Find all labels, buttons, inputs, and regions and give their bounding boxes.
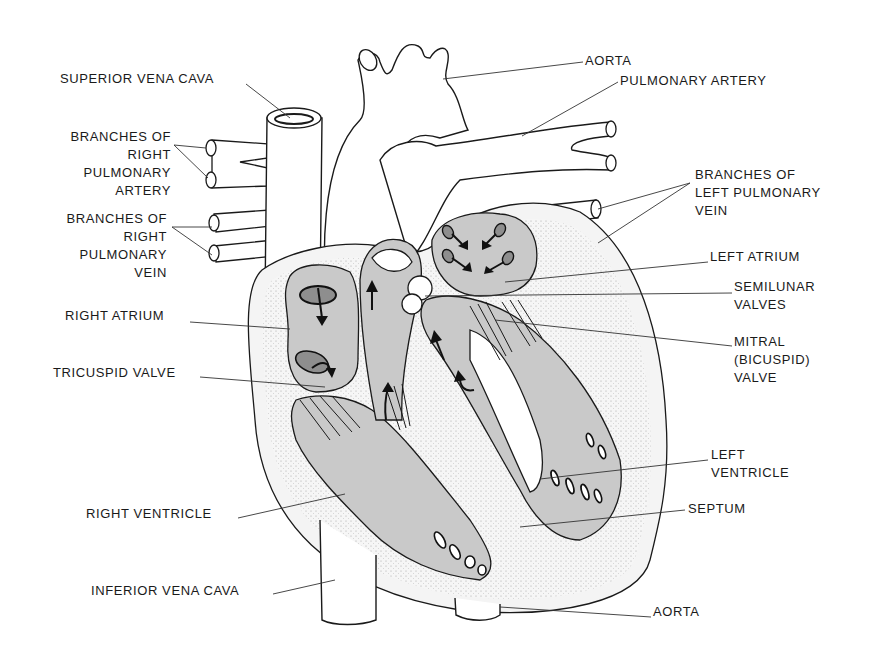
label-superior-vena-cava: SUPERIOR VENA CAVA (60, 70, 214, 88)
right-atrium-chamber (285, 265, 358, 392)
heart-diagram: SUPERIOR VENA CAVA BRANCHES OF RIGHT PUL… (0, 0, 871, 661)
label-right-ventricle: RIGHT VENTRICLE (86, 505, 212, 523)
label-left-atrium: LEFT ATRIUM (710, 248, 800, 266)
label-left-ventricle: LEFT VENTRICLE (711, 446, 789, 482)
leader-line-branches-right-pulmonary-artery (174, 145, 208, 178)
leader-line-aorta-top (443, 62, 583, 79)
leader-line-branches-right-pulmonary-artery (174, 145, 206, 148)
label-pulmonary-artery: PULMONARY ARTERY (620, 72, 767, 90)
label-inferior-vena-cava: INFERIOR VENA CAVA (91, 582, 239, 600)
right-pulmonary-artery-branches (206, 140, 270, 188)
label-septum: SEPTUM (688, 500, 746, 518)
label-right-atrium: RIGHT ATRIUM (65, 307, 164, 325)
leader-line-branches-left-pulmonary-vein (598, 183, 690, 209)
heart-illustration (0, 0, 871, 661)
label-mitral-bicuspid-valve: MITRAL (BICUSPID) VALVE (734, 333, 810, 387)
label-aorta-bottom: AORTA (653, 603, 700, 621)
label-branches-right-pulmonary-artery: BRANCHES OF RIGHT PULMONARY ARTERY (58, 128, 171, 200)
leader-line-branches-left-pulmonary-vein (598, 183, 690, 243)
label-branches-right-pulmonary-vein: BRANCHES OF RIGHT PULMONARY VEIN (54, 210, 167, 282)
label-tricuspid-valve: TRICUSPID VALVE (53, 364, 176, 382)
leader-line-superior-vena-cava (246, 84, 290, 118)
leader-line-branches-right-pulmonary-vein (172, 227, 212, 255)
label-aorta-top: AORTA (585, 52, 632, 70)
label-semilunar-valves: SEMILUNAR VALVES (734, 278, 815, 314)
label-branches-left-pulmonary-vein: BRANCHES OF LEFT PULMONARY VEIN (695, 166, 821, 220)
